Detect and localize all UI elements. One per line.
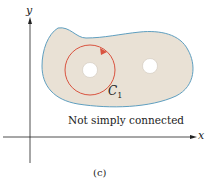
hole-right — [143, 59, 158, 74]
diagram-canvas — [0, 0, 206, 189]
hole-left — [83, 63, 98, 78]
figure-label: (c) — [93, 167, 106, 178]
y-axis-arrow-icon — [28, 17, 32, 24]
curve-label-main: C — [108, 84, 117, 98]
y-axis-label: y — [26, 4, 32, 17]
x-axis-label: x — [198, 129, 204, 142]
curve-label: C1 — [108, 84, 122, 100]
region-caption: Not simply connected — [68, 114, 184, 126]
x-axis-arrow-icon — [190, 135, 197, 139]
curve-label-subscript: 1 — [117, 91, 122, 100]
